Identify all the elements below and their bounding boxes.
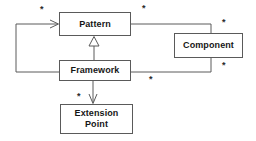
connector-framework-inherits-pattern xyxy=(89,37,99,61)
connector-pattern-component xyxy=(131,24,211,33)
multiplicity-marker-4: * xyxy=(222,61,226,70)
uml-class-component-label: Component xyxy=(183,40,234,51)
multiplicity-marker-2: * xyxy=(142,4,146,13)
uml-class-pattern[interactable]: Pattern xyxy=(59,12,131,36)
connector-line xyxy=(16,24,59,72)
uml-class-extension-point-label: Extension Point xyxy=(75,108,119,130)
uml-class-framework[interactable]: Framework xyxy=(59,60,131,81)
uml-class-framework-label: Framework xyxy=(71,65,120,76)
uml-class-pattern-label: Pattern xyxy=(79,19,111,30)
uml-class-component[interactable]: Component xyxy=(174,33,243,58)
multiplicity-marker-3: * xyxy=(222,18,226,27)
multiplicity-marker-5: * xyxy=(149,75,153,84)
uml-class-extension-point[interactable]: Extension Point xyxy=(60,104,133,134)
hollow-triangle-icon xyxy=(89,37,99,47)
connector-framework-extension-point xyxy=(89,81,97,104)
connector-framework-component xyxy=(131,58,211,72)
multiplicity-marker-1: * xyxy=(40,5,44,14)
uml-class-diagram: Pattern Component Framework Extension Po… xyxy=(0,0,256,141)
connector-line xyxy=(131,58,211,72)
multiplicity-marker-6: * xyxy=(77,92,81,101)
connector-line xyxy=(131,24,211,33)
connector-framework-uses-pattern xyxy=(16,20,59,72)
